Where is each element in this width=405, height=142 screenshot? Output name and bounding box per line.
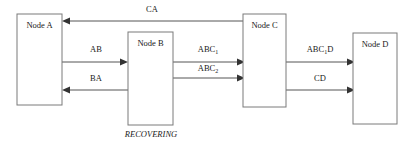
- network-message-diagram: Node A Node B Node C Node D CA AB BA ABC…: [0, 0, 405, 142]
- edge-label-ab: AB: [90, 44, 102, 54]
- node-c-label: Node C: [251, 20, 278, 30]
- node-a[interactable]: Node A: [17, 14, 62, 105]
- edge-label-abc1: ABC1: [198, 44, 218, 55]
- arrowhead-ca: [62, 18, 70, 25]
- arrowhead-ab: [120, 59, 128, 66]
- node-d[interactable]: Node D: [353, 33, 397, 124]
- arrowhead-ba: [62, 87, 70, 94]
- edge-label-abc2: ABC2: [198, 63, 218, 74]
- message-arrow-ca: [62, 18, 243, 25]
- edge-label-ba: BA: [90, 73, 103, 83]
- node-a-label: Node A: [26, 20, 53, 30]
- node-b-label: Node B: [137, 38, 164, 48]
- message-arrow-ba: [62, 87, 128, 94]
- node-b[interactable]: Node B: [128, 32, 173, 125]
- message-arrow-abc1d: [286, 59, 355, 66]
- node-b-state-annotation: RECOVERING: [124, 129, 177, 139]
- edge-label-abc1d: ABC1D: [307, 44, 334, 55]
- node-d-label: Node D: [362, 39, 389, 49]
- diagram-canvas: Node A Node B Node C Node D CA AB BA ABC…: [0, 0, 405, 142]
- edge-label-cd: CD: [314, 73, 326, 83]
- message-arrow-cd: [286, 87, 355, 94]
- message-arrow-ab: [62, 59, 128, 66]
- edge-label-ca: CA: [146, 4, 159, 14]
- node-c[interactable]: Node C: [243, 14, 286, 107]
